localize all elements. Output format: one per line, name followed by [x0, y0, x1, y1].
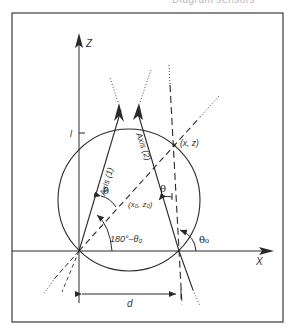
figure-frame	[12, 13, 283, 322]
angle-180-theta0-arc	[97, 215, 112, 251]
theta0-label: θ₀	[199, 234, 209, 245]
point-xz-marker	[172, 143, 175, 146]
vertical-dashed-line	[169, 65, 182, 305]
theta-label-right: θ	[160, 183, 166, 194]
angle-180-theta0-label: 180°–θ₀	[110, 234, 143, 244]
sensor-geometry-diagram: Z l X Axis (1) Axis (2) (	[0, 0, 291, 335]
x-axis-label: X	[255, 256, 263, 267]
theta-arc-right	[159, 196, 172, 200]
center-point-label: (x₀, z₀)	[128, 200, 153, 209]
axis-1-arrow-icon	[114, 103, 124, 122]
distance-dimension: d	[82, 289, 181, 309]
point-xz-label: (x, z)	[180, 138, 199, 148]
l-tick-label: l	[70, 129, 73, 139]
axis-2: Axis (2)	[133, 70, 200, 306]
z-axis: Z	[75, 33, 93, 303]
axis-2-arrow-icon	[133, 103, 143, 120]
theta-label-left: θ	[103, 185, 109, 196]
z-axis-label: Z	[85, 38, 93, 49]
x-axis: X	[12, 247, 274, 267]
theta0-arc	[180, 230, 196, 251]
distance-label: d	[127, 298, 133, 309]
axis-2-label: Axis (2)	[134, 130, 154, 162]
theta-arc-left	[101, 196, 116, 207]
line-of-sight-dashed	[43, 96, 219, 295]
